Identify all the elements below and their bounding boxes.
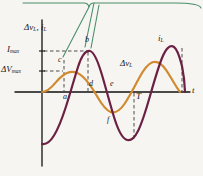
x-axis-label: t <box>192 86 195 95</box>
point-c-label: c <box>58 56 62 64</box>
i-max-tick-label: Imax <box>7 45 19 55</box>
y-axis-label-current: iL <box>41 22 47 32</box>
voltage-curve-label-sub: L <box>129 62 132 68</box>
delta-v-max-main: ΔV <box>1 64 12 74</box>
current-curve-label-sub: L <box>161 37 164 43</box>
point-d-label: d <box>89 80 93 88</box>
y-axis-label: ΔvL, iL <box>24 23 47 33</box>
delta-v-max-sub: max <box>12 68 21 74</box>
voltage-curve-label: ΔvL <box>120 59 132 69</box>
i-max-sub: max <box>10 48 19 54</box>
point-b-label: b <box>85 36 89 44</box>
green-leader-brackets <box>23 3 201 57</box>
period-label: T <box>136 92 141 101</box>
delta-v-max-tick-label: ΔVmax <box>1 65 21 75</box>
y-axis-label-voltage: ΔvL <box>24 22 36 32</box>
point-a-label: a <box>63 93 67 101</box>
current-curve-label: iL <box>158 34 164 44</box>
point-f-label: f <box>107 116 109 124</box>
voltage-curve-label-main: Δv <box>120 58 129 68</box>
point-e-label: e <box>110 80 114 88</box>
figure-container: ΔvL, iL t Imax ΔVmax iL ΔvL a b c d e f … <box>0 0 203 176</box>
